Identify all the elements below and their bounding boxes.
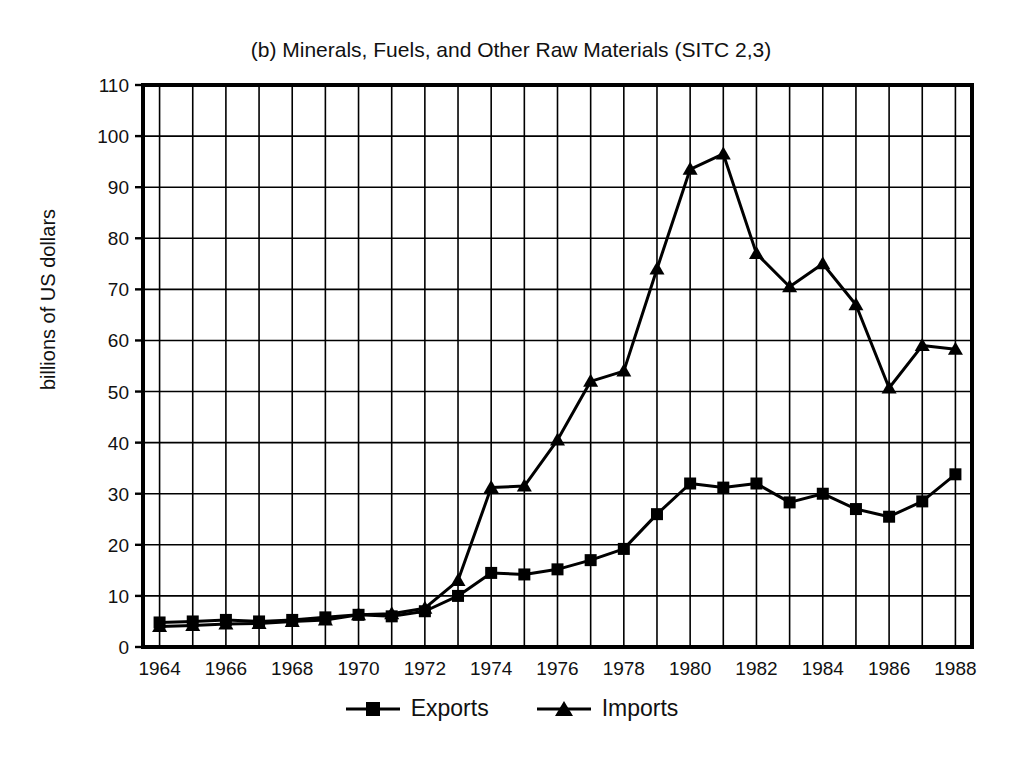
x-tick-label: 1966 (205, 658, 247, 679)
y-tick-label: 110 (99, 75, 129, 96)
plot-area: 0102030405060708090100110196419661968197… (0, 0, 1022, 765)
x-tick-label: 1968 (271, 658, 313, 679)
triangle-marker-icon (535, 699, 593, 719)
data-point-marker (452, 590, 464, 602)
legend-label-exports: Exports (411, 695, 489, 722)
data-point-marker (649, 261, 664, 274)
x-tick-label: 1972 (404, 658, 446, 679)
y-tick-label: 10 (108, 586, 129, 607)
x-tick-label: 1980 (669, 658, 711, 679)
y-tick-label: 90 (108, 177, 129, 198)
x-tick-label: 1978 (603, 658, 645, 679)
legend-item-imports[interactable]: Imports (535, 695, 679, 722)
y-tick-label: 100 (97, 126, 129, 147)
data-point-marker (815, 256, 830, 269)
x-tick-label: 1982 (735, 658, 777, 679)
data-point-marker (883, 511, 895, 523)
data-point-marker (451, 573, 466, 586)
x-tick-label: 1988 (934, 658, 976, 679)
y-tick-label: 50 (108, 382, 129, 403)
y-tick-label: 80 (108, 228, 129, 249)
data-point-marker (749, 246, 764, 259)
x-tick-label: 1964 (138, 658, 181, 679)
data-point-marker (618, 543, 630, 555)
y-tick-label: 40 (108, 433, 129, 454)
y-tick-label: 30 (108, 484, 129, 505)
x-tick-label: 1974 (470, 658, 513, 679)
x-tick-label: 1976 (536, 658, 578, 679)
data-point-marker (949, 468, 961, 480)
x-tick-label: 1986 (868, 658, 910, 679)
data-point-marker (716, 146, 731, 159)
y-tick-label: 20 (108, 535, 129, 556)
x-tick-label: 1984 (802, 658, 845, 679)
data-point-marker (916, 495, 928, 507)
data-point-marker (485, 567, 497, 579)
data-point-marker (651, 508, 663, 520)
legend-item-exports[interactable]: Exports (344, 695, 489, 722)
data-point-marker (784, 496, 796, 508)
axis-tick-labels: 0102030405060708090100110196419661968197… (97, 75, 976, 679)
data-point-marker (850, 503, 862, 515)
data-point-marker (684, 478, 696, 490)
data-point-marker (817, 488, 829, 500)
chart-figure: (b) Minerals, Fuels, and Other Raw Mater… (0, 0, 1022, 765)
gridlines (143, 85, 972, 647)
data-point-marker (750, 478, 762, 490)
y-tick-label: 70 (108, 279, 129, 300)
y-tick-label: 60 (108, 330, 129, 351)
square-marker-icon (344, 699, 402, 719)
data-point-marker (717, 482, 729, 494)
legend-label-imports: Imports (602, 695, 679, 722)
x-tick-label: 1970 (337, 658, 379, 679)
chart-legend: Exports Imports (0, 695, 1022, 722)
data-point-marker (616, 364, 631, 377)
data-point-marker (552, 563, 564, 575)
data-point-marker (550, 433, 565, 446)
y-tick-label: 0 (118, 637, 129, 658)
data-point-marker (518, 568, 530, 580)
data-point-marker (585, 554, 597, 566)
